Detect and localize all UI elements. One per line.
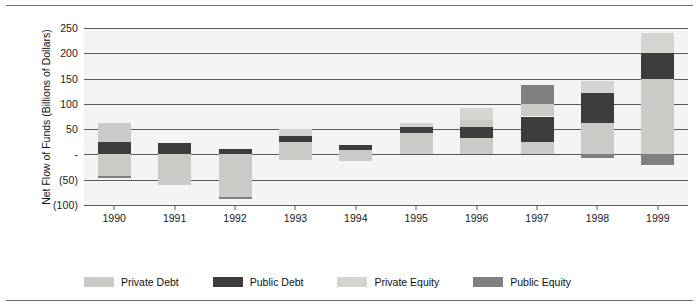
bar-segment <box>521 117 554 142</box>
bar-segment <box>400 127 433 134</box>
bar-group <box>98 28 131 205</box>
y-tick-label: 50 <box>66 123 78 135</box>
bar-segment <box>581 93 614 123</box>
bar-segment <box>581 81 614 93</box>
y-tick-label: 200 <box>60 47 78 59</box>
y-tick-label: 250 <box>60 22 78 34</box>
bar-segment <box>641 154 674 164</box>
bar-group <box>400 28 433 205</box>
x-tick-label: 1999 <box>646 212 669 224</box>
x-tick-label: 1997 <box>525 212 548 224</box>
bar-segment <box>581 154 614 158</box>
bar-segment <box>460 108 493 120</box>
bar-group <box>158 28 191 205</box>
legend-item: Public Debt <box>213 276 304 288</box>
bar-segment <box>219 197 252 199</box>
legend-label: Private Equity <box>374 276 439 288</box>
x-tick-mark <box>114 206 115 210</box>
x-tick-mark <box>657 206 658 210</box>
x-tick-label: 1990 <box>103 212 126 224</box>
plot-area <box>84 28 688 205</box>
x-tick-label: 1998 <box>586 212 609 224</box>
y-axis-tick-labels: 25020015010050-(50)(100) <box>34 28 78 205</box>
bar-segment <box>98 176 131 178</box>
legend-item: Private Equity <box>337 276 439 288</box>
bottom-rule <box>6 300 693 301</box>
x-tick-mark <box>597 206 598 210</box>
bar-group <box>641 28 674 205</box>
x-tick-mark <box>537 206 538 210</box>
bar-group <box>219 28 252 205</box>
bar-segment <box>521 85 554 104</box>
bar-segment <box>279 142 312 155</box>
bar-segment <box>521 104 554 117</box>
legend-swatch-icon <box>213 277 243 287</box>
legend-item: Public Equity <box>473 276 571 288</box>
y-tick-label: - <box>74 148 78 160</box>
bar-segment <box>521 142 554 155</box>
legend-swatch-icon <box>84 277 114 287</box>
bar-segment <box>460 138 493 155</box>
x-tick-mark <box>174 206 175 210</box>
bar-group <box>339 28 372 205</box>
chart-legend: Private DebtPublic DebtPrivate EquityPub… <box>84 272 688 292</box>
bar-segment <box>158 143 191 154</box>
top-rule <box>6 5 693 6</box>
bar-segment <box>219 154 252 197</box>
legend-swatch-icon <box>337 277 367 287</box>
legend-label: Public Debt <box>250 276 304 288</box>
y-axis-title-container: Net Flow of Funds (Billions of Dollars) <box>8 28 32 205</box>
x-tick-label: 1994 <box>344 212 367 224</box>
bar-group <box>521 28 554 205</box>
bar-segment <box>279 154 312 160</box>
bar-segment <box>641 79 674 155</box>
x-tick-mark <box>416 206 417 210</box>
legend-swatch-icon <box>473 277 503 287</box>
bar-group <box>460 28 493 205</box>
bar-segment <box>400 133 433 154</box>
y-tick-label: (50) <box>59 174 78 186</box>
x-tick-label: 1993 <box>284 212 307 224</box>
bar-group <box>279 28 312 205</box>
x-tick-label: 1996 <box>465 212 488 224</box>
y-tick-label: 100 <box>60 98 78 110</box>
bar-segment <box>581 123 614 154</box>
chart-figure: Net Flow of Funds (Billions of Dollars) … <box>0 0 699 305</box>
bar-segment <box>339 150 372 161</box>
x-tick-label: 1992 <box>223 212 246 224</box>
bar-segment <box>460 127 493 138</box>
x-tick-mark <box>355 206 356 210</box>
bar-segment <box>98 142 131 155</box>
x-tick-label: 1995 <box>405 212 428 224</box>
bar-segment <box>98 123 131 142</box>
y-tick-label: (100) <box>53 199 78 211</box>
bar-segment <box>641 33 674 53</box>
bar-group <box>581 28 614 205</box>
x-tick-mark <box>235 206 236 210</box>
bar-segment <box>158 154 191 184</box>
y-tick-label: 150 <box>60 73 78 85</box>
legend-label: Private Debt <box>121 276 179 288</box>
bar-segment <box>641 53 674 78</box>
bar-segment <box>98 154 131 176</box>
bar-segment <box>460 120 493 127</box>
x-tick-mark <box>476 206 477 210</box>
x-tick-label: 1991 <box>163 212 186 224</box>
x-tick-mark <box>295 206 296 210</box>
legend-item: Private Debt <box>84 276 179 288</box>
legend-label: Public Equity <box>510 276 571 288</box>
